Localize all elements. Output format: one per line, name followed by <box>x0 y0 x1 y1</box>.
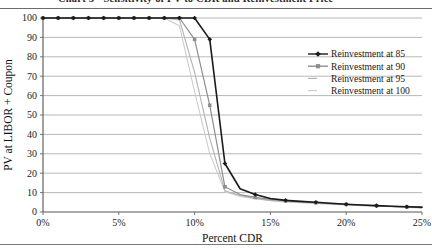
gridlines <box>43 18 422 193</box>
figure-container: Chart 3 - Sensitivity of PV to CDR and R… <box>0 0 432 250</box>
series-line <box>43 18 422 207</box>
chart-legend: Reinvestment at 85Reinvestment at 90Rein… <box>308 48 410 96</box>
legend-label: Reinvestment at 95 <box>331 73 405 84</box>
plot-area: 0102030405060708090100 0%5%10%15%20%25% … <box>0 10 432 242</box>
x-tick-label: 15% <box>261 217 279 228</box>
y-axis-title: PV at LIBOR + Coupon <box>2 59 15 171</box>
series-marker <box>193 38 197 42</box>
series-marker <box>208 104 212 108</box>
series-line <box>43 18 422 208</box>
y-tick-label: 20 <box>27 168 37 179</box>
y-tick-label: 80 <box>27 51 37 62</box>
y-tick-label: 100 <box>22 12 37 23</box>
legend-marker <box>316 64 320 68</box>
x-tick-label: 10% <box>185 217 203 228</box>
x-tick-label: 20% <box>337 217 355 228</box>
y-tick-labels: 0102030405060708090100 <box>22 12 37 217</box>
legend-label: Reinvestment at 90 <box>331 61 405 72</box>
series-group <box>41 16 422 209</box>
figure-title-clipped: Chart 3 - Sensitivity of PV to CDR and R… <box>58 0 358 5</box>
y-tick-label: 60 <box>27 90 37 101</box>
top-rule <box>0 8 432 9</box>
y-tick-label: 90 <box>27 32 37 43</box>
y-tick-label: 0 <box>32 206 37 217</box>
bottom-rule <box>0 244 432 245</box>
y-tick-label: 40 <box>27 129 37 140</box>
x-tick-label: 5% <box>112 217 125 228</box>
y-tick-label: 30 <box>27 148 37 159</box>
series-line <box>43 18 422 208</box>
line-chart: 0102030405060708090100 0%5%10%15%20%25% … <box>0 10 432 242</box>
legend-marker <box>315 51 321 57</box>
x-tick-label: 25% <box>413 217 431 228</box>
legend-label: Reinvestment at 85 <box>331 48 405 59</box>
legend-label: Reinvestment at 100 <box>331 85 410 96</box>
x-axis-title: Percent CDR <box>202 232 263 242</box>
y-tick-label: 50 <box>27 109 37 120</box>
series-line <box>43 18 422 208</box>
x-tick-label: 0% <box>36 217 49 228</box>
y-tick-label: 10 <box>27 187 37 198</box>
x-tick-labels: 0%5%10%15%20%25% <box>36 217 431 228</box>
series-marker <box>223 185 227 189</box>
y-tick-label: 70 <box>27 71 37 82</box>
